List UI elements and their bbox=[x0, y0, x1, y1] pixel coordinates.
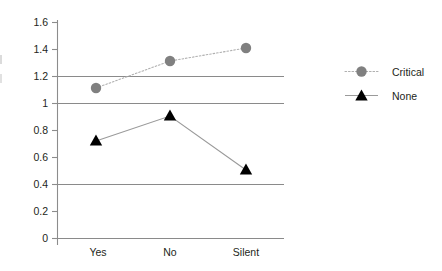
line-chart: 1.6 1.4 1.2 1 0.8 0.6 0.4 0.2 0 Yes No S… bbox=[0, 0, 442, 271]
series-none bbox=[90, 110, 252, 175]
data-point-none-silent bbox=[240, 164, 252, 175]
x-axis-labels: Yes No Silent bbox=[89, 246, 259, 258]
x-axis-label-yes: Yes bbox=[89, 246, 106, 258]
series-line-critical bbox=[96, 48, 246, 88]
y-axis-label-1: 1 bbox=[42, 97, 48, 109]
y-axis-label-0.4: 0.4 bbox=[33, 178, 48, 190]
y-axis-label-0.6: 0.6 bbox=[33, 151, 48, 163]
y-axis-label-1.6: 1.6 bbox=[33, 16, 48, 28]
data-point-none-no bbox=[164, 110, 176, 121]
y-axis-label-1.2: 1.2 bbox=[33, 70, 48, 82]
legend-item-critical[interactable]: Critical bbox=[345, 66, 424, 78]
series-critical bbox=[91, 43, 251, 93]
y-axis-ticks bbox=[52, 23, 57, 239]
chart-canvas: 1.6 1.4 1.2 1 0.8 0.6 0.4 0.2 0 Yes No S… bbox=[0, 0, 442, 271]
y-axis-label-0.2: 0.2 bbox=[33, 205, 48, 217]
series-line-none bbox=[96, 116, 246, 170]
edge-artifact bbox=[0, 74, 2, 83]
legend-item-none[interactable]: None bbox=[345, 90, 417, 102]
legend-label-none: None bbox=[392, 90, 417, 102]
data-point-critical-silent bbox=[241, 43, 251, 53]
data-point-critical-yes bbox=[91, 83, 101, 93]
x-axis-label-silent: Silent bbox=[233, 246, 259, 258]
gridlines bbox=[57, 77, 284, 239]
legend-label-critical: Critical bbox=[392, 66, 424, 78]
y-axis-label-1.4: 1.4 bbox=[33, 43, 48, 55]
data-point-critical-no bbox=[165, 56, 175, 66]
chart-legend: Critical None bbox=[345, 66, 424, 102]
y-axis-label-0.8: 0.8 bbox=[33, 124, 48, 136]
y-axis-label-0: 0 bbox=[42, 232, 48, 244]
y-axis-labels: 1.6 1.4 1.2 1 0.8 0.6 0.4 0.2 0 bbox=[33, 16, 48, 244]
legend-marker-circle-icon bbox=[356, 66, 366, 76]
edge-artifact bbox=[0, 55, 2, 64]
x-axis-label-no: No bbox=[163, 246, 177, 258]
